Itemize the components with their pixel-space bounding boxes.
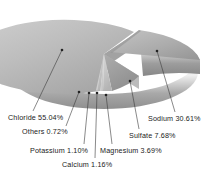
leader-dot-potassium bbox=[88, 92, 91, 95]
leader-dot-magnesium bbox=[105, 94, 108, 97]
leader-dot-calcium bbox=[96, 92, 99, 95]
pie-chart-graphic bbox=[0, 0, 211, 178]
leader-dot-sulfate bbox=[129, 80, 132, 83]
leader-dot-sodium bbox=[156, 50, 159, 53]
leader-dot-chloride bbox=[61, 49, 64, 52]
pie-chart-figure: Chloride 55.04% Sodium 30.61% Sulfate 7.… bbox=[0, 0, 211, 178]
leader-dot-others bbox=[78, 91, 81, 94]
